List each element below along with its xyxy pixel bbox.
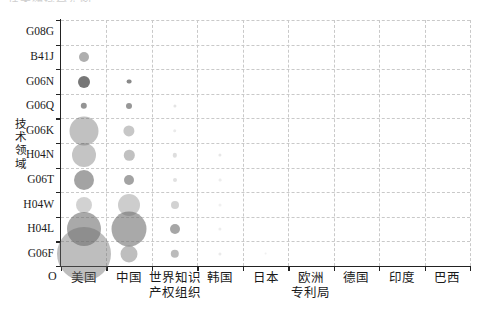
grid-line-horizontal xyxy=(61,143,470,144)
grid-line-vertical xyxy=(425,20,426,266)
x-axis-tick xyxy=(288,266,289,271)
bubble-point xyxy=(124,150,134,160)
y-axis-tick-label: G06F xyxy=(28,248,54,260)
y-axis-tick-label: H04L xyxy=(27,223,54,235)
bubble-point xyxy=(219,178,222,181)
bubble-point xyxy=(173,105,176,108)
y-axis-title: 技术领域 xyxy=(13,118,27,171)
x-axis-tick-label: 韩国 xyxy=(207,271,233,286)
bubble-point xyxy=(57,227,111,281)
bubble-point xyxy=(126,103,132,109)
y-axis-tick xyxy=(56,118,61,119)
grid-line-vertical xyxy=(152,20,153,266)
bubble-point xyxy=(171,201,179,209)
bubble-point xyxy=(170,224,180,234)
grid-line-horizontal xyxy=(61,168,470,169)
x-axis-tick-label: 巴西 xyxy=(434,271,460,286)
y-axis-tick-label: G08G xyxy=(26,27,54,39)
grid-line-horizontal xyxy=(61,94,470,95)
plot-frame-top xyxy=(61,20,470,21)
y-axis-tick-label: G06K xyxy=(26,125,54,137)
grid-line-horizontal xyxy=(61,192,470,193)
bubble-point xyxy=(172,153,176,157)
grid-line-horizontal xyxy=(61,69,470,70)
y-axis-tick xyxy=(56,94,61,95)
x-axis-tick xyxy=(425,266,426,271)
x-axis-tick-label: 日本 xyxy=(253,271,279,286)
grid-line-horizontal xyxy=(61,45,470,46)
bubble-point xyxy=(81,103,87,109)
x-axis-line xyxy=(60,266,471,267)
x-axis-tick xyxy=(470,266,471,271)
x-axis-tick-label: 德国 xyxy=(343,271,369,286)
bubble-point xyxy=(74,170,94,190)
origin-label: O xyxy=(48,269,57,284)
clipped-top-caption: 技术领域分布图 xyxy=(8,0,92,2)
y-axis-tick xyxy=(56,143,61,144)
bubble-point xyxy=(112,212,147,247)
grid-line-horizontal xyxy=(61,118,470,119)
y-axis-tick-label: G06T xyxy=(27,174,54,186)
y-axis-tick-label: B41J xyxy=(30,51,54,63)
bubble-point xyxy=(124,125,135,136)
grid-line-vertical xyxy=(106,20,107,266)
bubble-point xyxy=(173,129,177,133)
bubble-point xyxy=(218,228,221,231)
grid-line-vertical xyxy=(334,20,335,266)
bubble-point xyxy=(79,52,89,62)
bubble-point xyxy=(218,252,221,255)
bubble-point xyxy=(76,197,92,213)
y-axis-tick xyxy=(56,45,61,46)
x-axis-tick-label: 中国 xyxy=(116,271,142,286)
y-axis-tick-label: H04N xyxy=(26,150,54,162)
y-axis-tick-label: G06N xyxy=(26,76,54,88)
bubble-point xyxy=(69,116,98,145)
bubble-point xyxy=(127,79,132,84)
x-axis-tick xyxy=(379,266,380,271)
y-axis-tick-label: G06Q xyxy=(26,100,54,112)
plot-frame-right xyxy=(470,20,471,266)
y-axis-tick xyxy=(56,20,61,21)
grid-line-vertical xyxy=(288,20,289,266)
x-axis-tick-label: 欧洲 专利局 xyxy=(291,271,330,300)
y-axis-tick xyxy=(56,69,61,70)
grid-line-vertical xyxy=(243,20,244,266)
bubble-point xyxy=(219,203,222,206)
grid-line-vertical xyxy=(379,20,380,266)
bubble-point xyxy=(72,143,96,167)
bubble-point xyxy=(124,175,134,185)
y-axis-tick xyxy=(56,217,61,218)
bubble-point xyxy=(218,154,221,157)
y-axis-tick-label: H04W xyxy=(23,199,54,211)
x-axis-tick xyxy=(243,266,244,271)
x-axis-tick xyxy=(334,266,335,271)
x-axis-tick-label: 世界知识 产权组织 xyxy=(149,271,201,300)
x-axis-tick-label: 印度 xyxy=(389,271,415,286)
bubble-point xyxy=(173,178,177,182)
bubble-point xyxy=(121,245,138,262)
y-axis-tick xyxy=(56,168,61,169)
grid-line-vertical xyxy=(197,20,198,266)
bubble-point xyxy=(264,252,267,255)
bubble-point xyxy=(170,249,178,257)
bubble-point xyxy=(78,76,90,88)
y-axis-tick xyxy=(56,192,61,193)
bubble-chart: 技术领域分布图 G08GB41JG06NG06QG06KH04NG06TH04W… xyxy=(0,0,481,310)
